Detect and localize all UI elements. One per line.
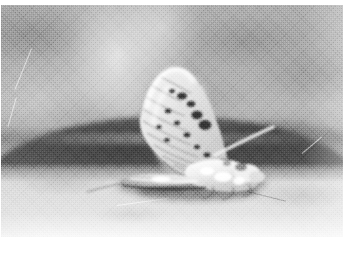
mayfly-illustration xyxy=(1,5,343,237)
mayfly-cercus xyxy=(215,127,273,155)
mayfly xyxy=(1,5,343,237)
photograph xyxy=(1,5,343,237)
photo-page xyxy=(0,0,355,256)
